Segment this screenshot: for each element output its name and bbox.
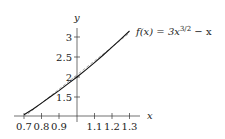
- x-axis-label: x: [147, 110, 153, 121]
- x-tick-label: 1.1: [87, 121, 103, 132]
- x-tick-labels: 0.7 0.8 0.9 1.1 1.2 1.3: [16, 121, 137, 132]
- y-tick-labels: 1.5 2 2.5 3: [56, 32, 72, 103]
- x-tick-label: 0.8: [34, 121, 50, 132]
- y-tick-label: 1.5: [56, 92, 72, 103]
- function-label: f(x) = 3x3/2 − x: [135, 25, 212, 37]
- x-tick-label: 0.7: [16, 121, 32, 132]
- function-label-suffix: − x: [191, 26, 212, 37]
- y-tick-label: 2.5: [56, 52, 72, 63]
- x-tick-label: 0.9: [51, 121, 67, 132]
- function-plot: 0.7 0.8 0.9 1.1 1.2 1.3 1.5 2 2.5 3 x y …: [0, 0, 225, 139]
- y-axis-label: y: [73, 12, 80, 23]
- x-tick-label: 1.2: [104, 121, 120, 132]
- function-label-exponent: 3/2: [180, 25, 191, 33]
- x-tick-label: 1.3: [122, 121, 138, 132]
- y-tick-label: 3: [66, 32, 72, 43]
- function-label-prefix: f(x) = 3x: [135, 26, 180, 37]
- plot-canvas: 0.7 0.8 0.9 1.1 1.2 1.3 1.5 2 2.5 3 x y …: [0, 0, 225, 139]
